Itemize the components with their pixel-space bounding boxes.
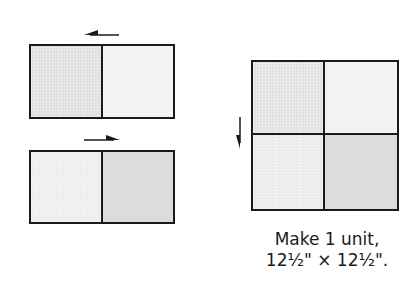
two-patch-unit-top: [29, 44, 175, 119]
caption-line-1: Make 1 unit,: [250, 229, 404, 250]
arrow-left-icon: [84, 29, 120, 39]
fabric-square-medium: [325, 135, 397, 209]
four-patch-unit: [251, 60, 399, 211]
fabric-square-medium: [253, 62, 325, 135]
arrow-down-icon: [235, 117, 245, 149]
arrow-right-icon: [84, 134, 120, 144]
fabric-square-light: [103, 46, 173, 117]
caption-line-2: 12½" × 12½".: [250, 250, 404, 271]
fabric-square-light: [31, 152, 103, 222]
caption: Make 1 unit, 12½" × 12½".: [250, 229, 404, 271]
fabric-square-medium: [31, 46, 103, 117]
two-patch-unit-bottom: [29, 150, 175, 224]
fabric-square-light: [253, 135, 325, 209]
fabric-square-light: [325, 62, 397, 135]
fabric-square-medium: [103, 152, 173, 222]
